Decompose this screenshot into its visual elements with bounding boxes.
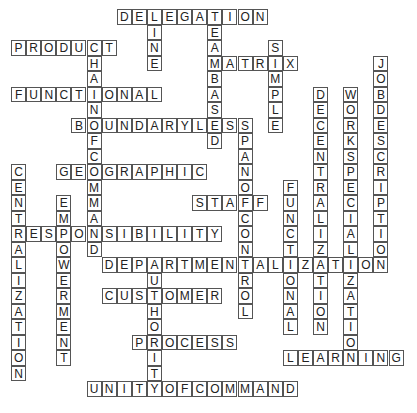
crossword-cell: T bbox=[283, 242, 298, 258]
crossword-cell: C bbox=[313, 118, 328, 134]
crossword-cell: D bbox=[102, 257, 117, 273]
crossword-cell: S bbox=[192, 195, 207, 211]
crossword-cell: D bbox=[373, 102, 388, 118]
crossword-cell: T bbox=[71, 87, 86, 103]
crossword-cell: A bbox=[343, 288, 358, 304]
crossword-cell: M bbox=[87, 180, 102, 196]
crossword-cell: C bbox=[283, 226, 298, 242]
crossword-cell: A bbox=[313, 257, 328, 273]
crossword-cell: P bbox=[343, 164, 358, 180]
crossword-cell: N bbox=[11, 366, 26, 382]
crossword-cell: C bbox=[192, 381, 207, 397]
crossword-cell: L bbox=[192, 118, 207, 134]
crossword-cell: N bbox=[253, 9, 268, 25]
crossword-cell: U bbox=[102, 118, 117, 134]
crossword-cell: B bbox=[373, 87, 388, 103]
crossword-cell: A bbox=[11, 242, 26, 258]
crossword-cell: E bbox=[313, 102, 328, 118]
crossword-cell: O bbox=[162, 335, 177, 351]
crossword-cell: I bbox=[117, 226, 132, 242]
crossword-cell: W bbox=[343, 87, 358, 103]
crossword-cell: A bbox=[253, 381, 268, 397]
crossword-cell: B bbox=[132, 226, 147, 242]
crossword-cell: D bbox=[87, 242, 102, 258]
crossword-cell: A bbox=[207, 40, 222, 56]
crossword-cell: F bbox=[177, 381, 192, 397]
crossword-cell: X bbox=[283, 56, 298, 72]
crossword-cell: U bbox=[71, 40, 86, 56]
crossword-cell: L bbox=[313, 211, 328, 227]
crossword-cell: I bbox=[147, 350, 162, 366]
crossword-cell: G bbox=[389, 350, 404, 366]
crossword-cell: T bbox=[373, 211, 388, 227]
crossword-cell: L bbox=[343, 242, 358, 258]
crossword-cell: T bbox=[238, 257, 253, 273]
crossword-cell: H bbox=[147, 304, 162, 320]
crossword-cell: A bbox=[253, 257, 268, 273]
crossword-cell: H bbox=[162, 164, 177, 180]
crossword-cell: E bbox=[373, 118, 388, 134]
crossword-cell: O bbox=[162, 381, 177, 397]
crossword-cell: C bbox=[11, 164, 26, 180]
crossword-cell: N bbox=[313, 149, 328, 165]
crossword-cell: R bbox=[373, 164, 388, 180]
crossword-cell: R bbox=[162, 257, 177, 273]
crossword-cell: F bbox=[238, 195, 253, 211]
crossword-cell: O bbox=[71, 226, 86, 242]
crossword-cell: O bbox=[373, 71, 388, 87]
crossword-cell: I bbox=[87, 87, 102, 103]
crossword-cell: I bbox=[358, 350, 373, 366]
crossword-cell: T bbox=[343, 304, 358, 320]
crossword-cell: I bbox=[117, 381, 132, 397]
crossword-cell: O bbox=[343, 335, 358, 351]
crossword-cell: T bbox=[56, 350, 71, 366]
crossword-cell: A bbox=[343, 226, 358, 242]
crossword-cell: R bbox=[56, 288, 71, 304]
crossword-cell: A bbox=[87, 211, 102, 227]
crossword-cell: I bbox=[177, 164, 192, 180]
crossword-cell: E bbox=[147, 56, 162, 72]
crossword-cell: D bbox=[207, 133, 222, 149]
crossword-cell: N bbox=[238, 164, 253, 180]
crossword-cell: C bbox=[102, 288, 117, 304]
crossword-cell: R bbox=[162, 118, 177, 134]
crossword-cell: T bbox=[207, 195, 222, 211]
crossword-cell: G bbox=[56, 164, 71, 180]
crossword-cell: S bbox=[343, 149, 358, 165]
crossword-cell: R bbox=[11, 226, 26, 242]
crossword-cell: I bbox=[147, 25, 162, 41]
crossword-cell: E bbox=[26, 226, 41, 242]
crossword-cell: C bbox=[87, 149, 102, 165]
crossword-cell: P bbox=[132, 257, 147, 273]
crossword-cell: A bbox=[313, 195, 328, 211]
crossword-cell: E bbox=[313, 133, 328, 149]
crossword-cell: N bbox=[102, 381, 117, 397]
crossword-cell: F bbox=[253, 195, 268, 211]
crossword-cell: A bbox=[132, 164, 147, 180]
crossword-cell: E bbox=[343, 180, 358, 196]
crossword-cell: O bbox=[358, 257, 373, 273]
crossword-cell: I bbox=[313, 226, 328, 242]
crossword-cell: M bbox=[222, 381, 237, 397]
crossword-cell: E bbox=[56, 319, 71, 335]
crossword-cell: A bbox=[222, 195, 237, 211]
crossword-cell: O bbox=[87, 118, 102, 134]
crossword-cell: A bbox=[207, 87, 222, 103]
crossword-cell: A bbox=[147, 118, 162, 134]
crossword-cell: N bbox=[343, 350, 358, 366]
crossword-cell: R bbox=[343, 118, 358, 134]
crossword-cell: P bbox=[11, 40, 26, 56]
crossword-cell: P bbox=[238, 133, 253, 149]
crossword-cell: T bbox=[11, 319, 26, 335]
crossword-cell: C bbox=[192, 164, 207, 180]
crossword-cell: P bbox=[147, 164, 162, 180]
crossword-cell: C bbox=[87, 40, 102, 56]
crossword-cell: A bbox=[283, 304, 298, 320]
crossword-cell: S bbox=[41, 226, 56, 242]
crossword-cell: E bbox=[132, 9, 147, 25]
crossword-cell: O bbox=[373, 242, 388, 258]
crossword-cell: Z bbox=[313, 242, 328, 258]
crossword-cell: Y bbox=[147, 381, 162, 397]
crossword-cell: D bbox=[56, 40, 71, 56]
crossword-cell: C bbox=[177, 335, 192, 351]
